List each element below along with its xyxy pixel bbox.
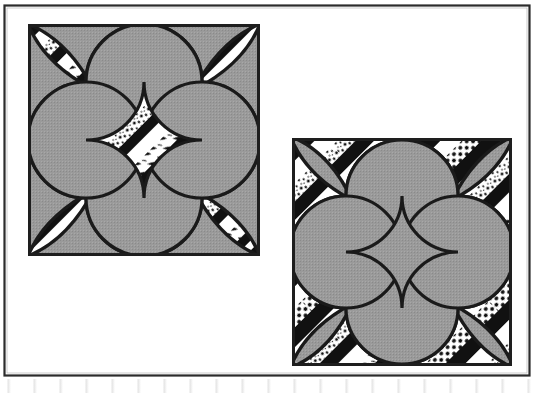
quilt-blocks-illustration: Two quilt block patterns bbox=[0, 0, 535, 393]
illustration-figure: Two quilt block patterns bbox=[0, 0, 535, 393]
quilt-block-right bbox=[290, 136, 514, 368]
quilt-block-left bbox=[28, 24, 260, 256]
